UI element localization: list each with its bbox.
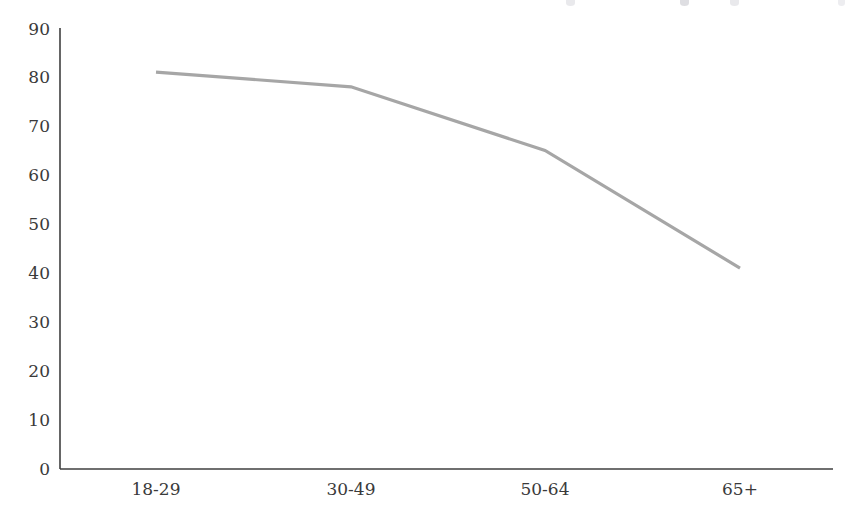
y-tick-label: 70 — [28, 116, 50, 136]
y-tick-label: 90 — [28, 19, 50, 39]
x-tick-label: 18-29 — [131, 479, 180, 499]
y-tick-label: 50 — [28, 214, 50, 234]
x-tick-label: 30-49 — [326, 479, 375, 499]
y-tick-label: 60 — [28, 165, 50, 185]
y-tick-label: 40 — [28, 263, 50, 283]
chart-canvas: 90 80 70 60 50 40 30 20 10 0 18-29 30-49… — [0, 0, 854, 520]
y-tick-label: 20 — [28, 361, 50, 381]
x-tick-label: 65+ — [722, 479, 758, 499]
y-tick-label: 0 — [39, 459, 50, 479]
line-chart: 90 80 70 60 50 40 30 20 10 0 18-29 30-49… — [0, 0, 854, 520]
y-tick-label: 10 — [28, 410, 50, 430]
y-tick-label: 30 — [28, 312, 50, 332]
y-tick-label: 80 — [28, 67, 50, 87]
x-tick-label: 50-64 — [520, 479, 569, 499]
